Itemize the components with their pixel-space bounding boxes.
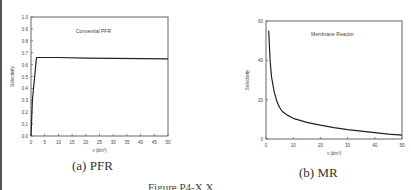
data-line	[269, 31, 402, 135]
x-tick-label: 10	[291, 143, 297, 148]
x-tick-label: 0	[265, 143, 268, 148]
x-tick-label: 20	[318, 143, 324, 148]
y-axis-label: Selectivity	[245, 69, 250, 90]
figure-caption: Figure P4-X.X	[148, 181, 213, 190]
chart-title: Membrane Reactor	[311, 31, 354, 37]
chart-mr: 010203040500204060v (dm³)SelectivityMemb…	[0, 0, 411, 160]
y-tick-label: 40	[258, 58, 264, 63]
x-axis-label: v (dm³)	[327, 151, 342, 156]
x-tick-label: 40	[372, 143, 378, 148]
x-tick-label: 30	[345, 143, 351, 148]
caption-pfr: (a) PFR	[72, 158, 113, 174]
y-tick-label: 60	[258, 19, 264, 24]
x-tick-label: 50	[399, 143, 405, 148]
caption-mr: (b) MR	[299, 165, 338, 181]
y-tick-label: 0	[260, 137, 263, 142]
y-tick-label: 20	[258, 98, 264, 103]
plot-frame	[266, 21, 402, 139]
